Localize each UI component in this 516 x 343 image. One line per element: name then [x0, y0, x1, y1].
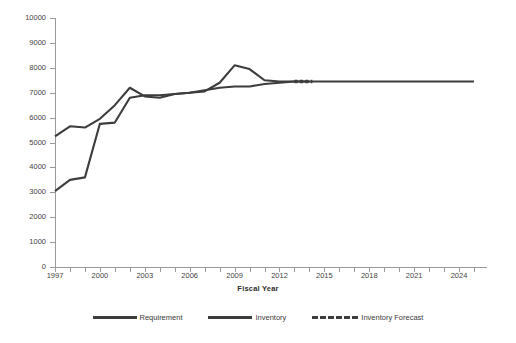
plot-area — [55, 18, 480, 267]
x-axis-tick-label: 2009 — [226, 271, 243, 280]
x-axis-tick — [399, 268, 400, 272]
x-axis-tick — [115, 268, 116, 272]
x-axis-tick — [444, 268, 445, 272]
y-axis-tick-label: 6000 — [0, 113, 46, 122]
x-axis-tick-label: 2012 — [271, 271, 288, 280]
x-axis-tick — [474, 268, 475, 272]
chart-container: 0100020003000400050006000700080009000100… — [0, 0, 516, 343]
x-axis-tick-label: 2015 — [316, 271, 333, 280]
y-axis-tick-label: 0 — [0, 262, 46, 271]
legend-label: Inventory Forecast — [361, 313, 423, 322]
x-axis-tick — [294, 268, 295, 272]
y-axis-tick-label: 8000 — [0, 63, 46, 72]
x-axis-tick — [85, 268, 86, 272]
x-axis-line — [55, 267, 487, 268]
y-axis-tick-label: 10000 — [0, 13, 46, 22]
legend-swatch-icon — [208, 316, 252, 319]
x-axis-tick — [220, 268, 221, 272]
x-axis-tick — [309, 268, 310, 272]
x-axis-tick-label: 2006 — [181, 271, 198, 280]
legend-label: Requirement — [140, 313, 183, 322]
series-lines — [55, 18, 480, 267]
legend-item-inventory[interactable]: Inventory — [208, 313, 286, 322]
x-axis-tick — [265, 268, 266, 272]
x-axis-tick — [354, 268, 355, 272]
series-line-inventory — [55, 82, 309, 192]
x-axis-tick-label: 2024 — [451, 271, 468, 280]
x-axis-tick — [205, 268, 206, 272]
y-axis-tick-label: 4000 — [0, 162, 46, 171]
y-axis-tick-label: 9000 — [0, 38, 46, 47]
x-axis-title: Fiscal Year — [0, 284, 516, 293]
x-axis-tick-label: 2018 — [361, 271, 378, 280]
x-axis-tick-label: 2000 — [92, 271, 109, 280]
x-axis-tick — [70, 268, 71, 272]
chart-legend: RequirementInventoryInventory Forecast — [0, 313, 516, 322]
x-axis-tick — [175, 268, 176, 272]
legend-swatch-icon — [93, 316, 137, 319]
legend-label: Inventory — [255, 313, 286, 322]
x-axis-tick-label: 1997 — [47, 271, 64, 280]
x-axis-tick — [130, 268, 131, 272]
x-axis-tick — [250, 268, 251, 272]
y-axis-tick-label: 3000 — [0, 187, 46, 196]
x-axis-tick — [429, 268, 430, 272]
legend-item-inventory-forecast[interactable]: Inventory Forecast — [312, 313, 423, 322]
x-axis-tick — [160, 268, 161, 272]
x-axis-tick-label: 2003 — [136, 271, 153, 280]
legend-swatch-icon — [312, 316, 358, 319]
y-axis-tick-label: 2000 — [0, 212, 46, 221]
x-axis-tick — [339, 268, 340, 272]
series-line-requirement — [55, 65, 474, 136]
x-axis-tick — [384, 268, 385, 272]
y-axis-tick-label: 5000 — [0, 138, 46, 147]
x-axis-tick-label: 2021 — [406, 271, 423, 280]
y-axis-tick-label: 7000 — [0, 88, 46, 97]
legend-item-requirement[interactable]: Requirement — [93, 313, 183, 322]
y-axis-tick-label: 1000 — [0, 237, 46, 246]
